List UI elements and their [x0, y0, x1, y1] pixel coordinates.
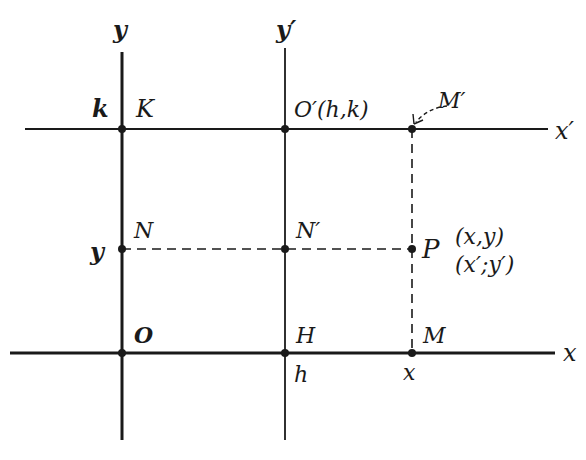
- label-k-tick: k: [92, 94, 109, 123]
- label-P: P: [421, 234, 440, 264]
- label-O: O: [134, 322, 153, 348]
- label-y-tick: y: [89, 237, 106, 266]
- arrow-head-icon: [413, 114, 423, 124]
- point-o-dot: [118, 349, 126, 357]
- label-o-prime: O′(h,k): [294, 97, 369, 122]
- point-n-prime-dot: [281, 245, 289, 253]
- label-p-new-coords: (x′;y′): [455, 252, 514, 277]
- coordinate-translation-diagram: y y′ x x′ k K O′(h,k) M′ y N N′ P (x,y) …: [0, 0, 586, 460]
- label-M: M: [422, 323, 446, 348]
- label-n-prime: N′: [295, 218, 320, 243]
- label-m-prime: M′: [437, 88, 466, 113]
- label-K: K: [135, 95, 156, 123]
- point-h-dot: [281, 349, 289, 357]
- x-prime-axis-label: x′: [555, 117, 575, 145]
- label-h-tick: h: [294, 362, 308, 387]
- point-k-dot: [118, 125, 126, 133]
- y-prime-axis-label: y′: [275, 15, 297, 44]
- label-N: N: [133, 218, 154, 243]
- y-axis-label: y: [112, 15, 129, 44]
- point-m-prime-dot: [408, 125, 416, 133]
- point-n-dot: [118, 245, 126, 253]
- label-x-tick: x: [403, 360, 416, 385]
- x-axis-label: x: [563, 339, 577, 367]
- label-p-original-coords: (x,y): [455, 224, 504, 249]
- label-H: H: [295, 323, 316, 348]
- point-p-dot: [408, 245, 416, 253]
- point-m-dot: [408, 349, 416, 357]
- point-o-prime-dot: [281, 125, 289, 133]
